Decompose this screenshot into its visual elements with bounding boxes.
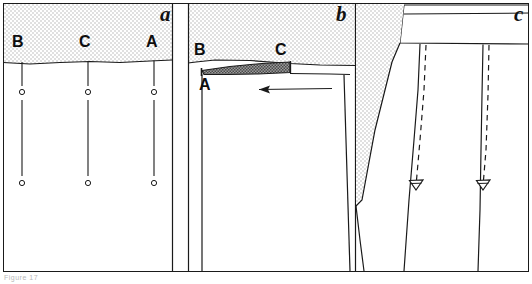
panel-label-a: a: [160, 4, 171, 25]
point-label-a-panel-b: A: [199, 77, 211, 93]
point-label-c-panel-b: C: [275, 42, 287, 58]
point-label-b-panel-a: B: [12, 34, 24, 50]
point-label-b-panel-b: B: [194, 42, 206, 58]
panel-label-c: c: [514, 4, 523, 25]
panel-label-b: b: [336, 4, 347, 25]
point-label-c-panel-a: C: [79, 34, 91, 50]
point-label-a-panel-a: A: [146, 34, 158, 50]
figure-container: a b c B C A B C A Figure 17: [0, 0, 532, 284]
figure-caption: Figure 17: [4, 274, 38, 281]
